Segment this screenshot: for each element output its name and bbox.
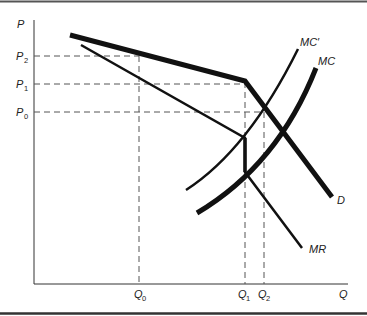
svg-text:P: P	[16, 78, 24, 90]
quantity-label-q0: Q 0	[134, 288, 146, 303]
svg-text:0: 0	[24, 112, 28, 121]
price-label-p2: P 2	[16, 50, 28, 65]
quantity-label-q1: Q 1	[238, 288, 250, 303]
y-axis-label: P	[17, 18, 25, 30]
quantity-label-q2: Q 2	[258, 288, 270, 303]
mr-label: MR	[309, 243, 326, 255]
svg-text:0: 0	[142, 294, 146, 303]
svg-text:P: P	[16, 50, 24, 62]
kinked-demand-diagram: P Q P 2 P 1 P 0 Q 0 Q 1 Q 2 D MR MC′ MC	[0, 0, 367, 316]
svg-text:2: 2	[266, 294, 270, 303]
demand-label: D	[337, 194, 345, 206]
mc-shifted-label: MC′	[300, 36, 320, 48]
svg-text:P: P	[16, 106, 24, 118]
dashed-guides	[34, 56, 264, 284]
x-axis-label: Q	[339, 288, 348, 300]
mc-label: MC	[318, 55, 335, 67]
svg-text:1: 1	[246, 294, 250, 303]
diagram-frame: P Q P 2 P 1 P 0 Q 0 Q 1 Q 2 D MR MC′ MC	[0, 0, 367, 316]
marginal-cost-curve	[197, 68, 316, 213]
svg-text:1: 1	[24, 84, 28, 93]
price-label-p1: P 1	[16, 78, 28, 93]
price-label-p0: P 0	[16, 106, 28, 121]
svg-text:2: 2	[24, 56, 28, 65]
marginal-revenue-curve	[81, 45, 302, 248]
